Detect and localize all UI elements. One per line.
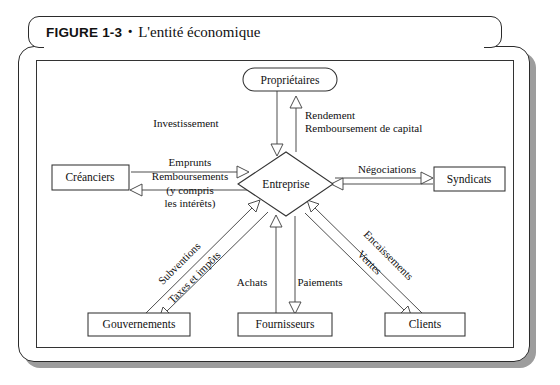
node-label-entreprise: Entreprise bbox=[262, 178, 309, 191]
edge-paiements bbox=[289, 216, 301, 314]
edge-rendement-remboursement-capital bbox=[290, 96, 302, 152]
figure-root: FIGURE 1-3 • L'entité économique bbox=[0, 0, 560, 385]
edge-label-rendement: Rendement bbox=[305, 109, 355, 121]
edge-investissement bbox=[271, 91, 283, 156]
node-gouvernements[interactable]: Gouvernements bbox=[88, 313, 190, 336]
edge-label-remboursement-capital: Remboursement de capital bbox=[305, 122, 422, 134]
edge-label-paiements: Paiements bbox=[297, 276, 342, 288]
node-label-proprietaires: Propriétaires bbox=[261, 74, 320, 87]
node-proprietaires[interactable]: Propriétaires bbox=[243, 68, 337, 91]
figure-number: FIGURE 1-3 bbox=[46, 25, 122, 40]
node-creanciers[interactable]: Créanciers bbox=[52, 165, 129, 190]
figure-caption: L'entité économique bbox=[138, 24, 260, 41]
edge-label-les-interets: les intérêts) bbox=[164, 197, 215, 210]
node-label-creanciers: Créanciers bbox=[65, 171, 115, 183]
node-fournisseurs[interactable]: Fournisseurs bbox=[238, 313, 332, 336]
node-clients[interactable]: Clients bbox=[385, 313, 465, 336]
edge-label-achats: Achats bbox=[237, 276, 268, 288]
edge-label-taxes-et-impots: Taxes et impôts bbox=[166, 249, 223, 306]
edge-negociations-to-entreprise bbox=[331, 178, 433, 190]
figure-bullet-separator: • bbox=[128, 25, 132, 37]
node-label-syndicats: Syndicats bbox=[447, 173, 492, 186]
economic-entity-diagram: Propriétaires Entreprise Créanciers Synd… bbox=[0, 0, 560, 385]
edge-label-investissement: Investissement bbox=[153, 117, 218, 129]
node-label-gouvernements: Gouvernements bbox=[103, 318, 176, 330]
edge-label-remboursements: Remboursements bbox=[152, 170, 228, 182]
node-label-clients: Clients bbox=[409, 318, 442, 330]
edge-label-y-compris: (y compris bbox=[166, 184, 213, 197]
edge-label-negociations: Négociations bbox=[358, 163, 416, 175]
figure-title: FIGURE 1-3 • L'entité économique bbox=[46, 16, 260, 48]
edge-achats bbox=[270, 215, 282, 313]
edge-subventions bbox=[146, 200, 260, 313]
node-label-fournisseurs: Fournisseurs bbox=[256, 318, 315, 330]
node-syndicats[interactable]: Syndicats bbox=[434, 167, 505, 191]
edge-label-emprunts: Emprunts bbox=[169, 156, 212, 168]
